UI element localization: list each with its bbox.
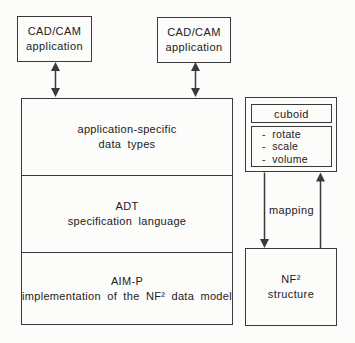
stack-box: application-specific data types ADT spec… [21, 98, 233, 325]
cuboid-title-box: cuboid [251, 104, 332, 123]
layer3-line1: AIM-P [111, 274, 143, 289]
layer1-line2: data types [99, 137, 156, 152]
arrowhead-up-icon [51, 62, 60, 71]
operation-item-scale: - scale [262, 140, 331, 152]
arrowhead-down-icon [191, 88, 200, 97]
cad-application-box-left: CAD/CAM application [17, 16, 92, 62]
layer2-line1: ADT [116, 199, 139, 214]
layer1-line1: application-specific [78, 122, 177, 137]
operation-item-volume: - volume [262, 153, 331, 165]
cad-right-connector [191, 62, 200, 97]
arrowhead-up-icon [191, 62, 200, 71]
arrowhead-down-icon [260, 239, 269, 248]
cad-right-title-line2: application [166, 40, 223, 55]
nf2-line2: structure [268, 287, 314, 302]
cad-left-title-line2: application [26, 39, 83, 54]
nf2-line1: NF² [281, 272, 301, 287]
mapping-up-arrow [316, 173, 325, 249]
diagram-canvas: CAD/CAM application CAD/CAM application … [0, 0, 355, 343]
layer3-line2: implementation of the NF² data model [22, 289, 232, 304]
layer-application-specific-data-types: application-specific data types [22, 99, 232, 175]
cad-application-box-right: CAD/CAM application [157, 17, 231, 63]
mapping-down-arrow [260, 173, 269, 249]
nf2-structure-box: NF² structure [245, 248, 337, 326]
cad-left-title-line1: CAD/CAM [28, 24, 82, 39]
cuboid-title-label: cuboid [274, 108, 309, 120]
layer2-line2: specification language [68, 214, 186, 229]
arrowhead-down-icon [51, 88, 60, 97]
layer-aimp-nf2-implementation: AIM-P implementation of the NF² data mod… [22, 252, 232, 324]
operation-item-rotate: - rotate [262, 128, 331, 140]
arrowhead-up-icon [316, 173, 325, 182]
cad-left-connector [51, 62, 60, 97]
layer-adt-specification-language: ADT specification language [22, 175, 232, 252]
cuboid-operations-box: - rotate - scale - volume [251, 126, 332, 167]
cad-right-title-line1: CAD/CAM [167, 25, 221, 40]
mapping-label: mapping [269, 204, 314, 216]
